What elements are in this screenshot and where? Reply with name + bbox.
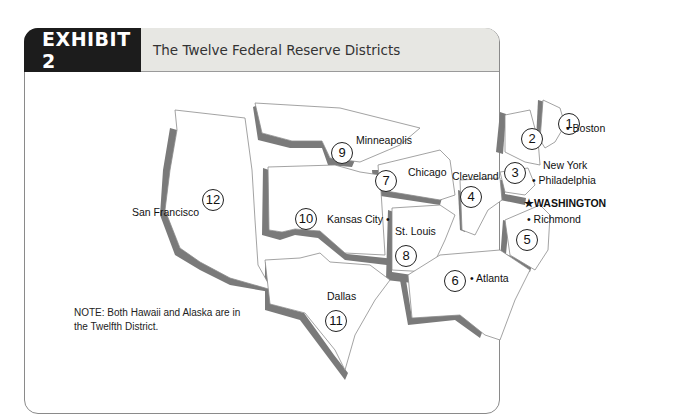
city-san-francisco: San Francisco xyxy=(132,206,199,218)
city-cleveland: Cleveland xyxy=(452,170,499,182)
capital-label: WASHINGTON xyxy=(534,197,606,209)
district-7-marker: 7 xyxy=(375,170,397,192)
district-8-marker: 8 xyxy=(395,245,417,267)
star-icon: ★ xyxy=(524,197,534,209)
district-10-marker: 10 xyxy=(295,208,317,230)
city-minneapolis: Minneapolis xyxy=(356,134,412,146)
city-philadelphia: • Philadelphia xyxy=(532,174,596,186)
city-kansas-city: Kansas City • xyxy=(327,213,390,225)
city-atlanta: • Atlanta xyxy=(470,272,509,284)
city-label: Philadelphia xyxy=(539,174,596,186)
district-5-marker: 5 xyxy=(516,229,538,251)
city-label: Atlanta xyxy=(476,272,509,284)
city-richmond: • Richmond xyxy=(527,213,581,225)
city-label: Minneapolis xyxy=(356,134,412,146)
district-3-marker: 3 xyxy=(504,162,526,184)
us-map xyxy=(0,0,676,419)
district-11-marker: 11 xyxy=(325,310,347,332)
district-6-marker: 6 xyxy=(444,270,466,292)
city-label: Boston xyxy=(573,122,606,134)
district-2-marker: 2 xyxy=(521,128,543,150)
city-chicago: Chicago xyxy=(408,166,447,178)
city-label: St. Louis xyxy=(395,225,436,237)
city-label: Chicago xyxy=(408,166,447,178)
city-label: Richmond xyxy=(534,213,581,225)
city-st-louis: St. Louis xyxy=(395,225,436,237)
map-note: NOTE: Both Hawaii and Alaska are in the … xyxy=(74,306,244,334)
city-boston: • Boston xyxy=(566,122,605,134)
city-label: Kansas City xyxy=(327,213,383,225)
city-label: San Francisco xyxy=(132,206,199,218)
city-dallas: Dallas xyxy=(327,290,356,302)
district-12-marker: 12 xyxy=(202,189,224,211)
district-4-marker: 4 xyxy=(460,186,482,208)
capital-washington: ★WASHINGTON xyxy=(524,197,606,209)
city-new-york: New York xyxy=(543,159,587,171)
city-label: New York xyxy=(543,159,587,171)
district-9-marker: 9 xyxy=(331,142,353,164)
city-label: Dallas xyxy=(327,290,356,302)
city-label: Cleveland xyxy=(452,170,499,182)
